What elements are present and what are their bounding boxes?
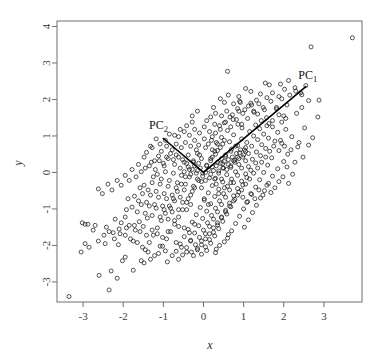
data-point [203, 146, 207, 150]
data-point [228, 204, 232, 208]
data-point [137, 220, 141, 224]
data-point [174, 186, 178, 190]
data-point [127, 178, 131, 182]
data-point [277, 113, 281, 117]
data-point [157, 159, 161, 163]
data-point [103, 242, 107, 246]
data-point [216, 210, 220, 214]
data-point [212, 217, 216, 221]
data-point [146, 188, 150, 192]
data-point [212, 105, 216, 109]
data-point [230, 229, 234, 233]
data-point [136, 199, 140, 203]
data-point [252, 171, 256, 175]
data-point [258, 92, 262, 96]
data-point [154, 189, 158, 193]
data-point [177, 257, 181, 261]
data-point [290, 135, 294, 139]
data-point [141, 224, 145, 228]
data-point [277, 149, 281, 153]
data-point [87, 245, 91, 249]
data-point [189, 144, 193, 148]
plot-canvas: -3-2-10123 -3-2-101234 PC1PC2 x y [0, 0, 380, 362]
data-point [187, 133, 191, 137]
data-point [138, 230, 142, 234]
data-point [232, 102, 236, 106]
data-point [307, 99, 311, 103]
data-point [350, 36, 354, 40]
data-point [181, 208, 185, 212]
data-point [256, 112, 260, 116]
data-point [241, 195, 245, 199]
data-point [226, 69, 230, 73]
data-point [115, 276, 119, 280]
data-point [167, 178, 171, 182]
data-point [145, 216, 149, 220]
data-point [238, 214, 242, 218]
data-point [214, 251, 218, 255]
data-point [173, 162, 177, 166]
data-point [116, 243, 120, 247]
data-point [166, 230, 170, 234]
data-point [143, 166, 147, 170]
data-point [271, 119, 275, 123]
data-point [86, 222, 90, 226]
data-point [185, 250, 189, 254]
data-point [309, 45, 313, 49]
data-point [67, 295, 71, 299]
data-point [229, 181, 233, 185]
data-point [91, 228, 95, 232]
data-point [197, 224, 201, 228]
data-point [254, 161, 258, 165]
data-point [271, 91, 275, 95]
pc-label-pc2: PC2 [149, 118, 168, 134]
plot-frame [57, 21, 362, 302]
data-point [149, 193, 153, 197]
data-point [163, 170, 167, 174]
data-point [142, 261, 146, 265]
data-point [254, 150, 258, 154]
data-point [260, 143, 264, 147]
data-point [282, 160, 286, 164]
data-point [197, 143, 201, 147]
data-point [135, 241, 139, 245]
data-point [254, 98, 258, 102]
data-point [286, 152, 290, 156]
data-point [171, 158, 175, 162]
data-point [132, 223, 136, 227]
data-point [177, 224, 181, 228]
data-point [206, 203, 210, 207]
data-point [134, 175, 138, 179]
data-point [185, 208, 189, 212]
y-axis-tick-labels: -3-2-101234 [40, 23, 52, 286]
data-point [280, 120, 284, 124]
data-point [198, 205, 202, 209]
data-point [250, 211, 254, 215]
principal-component-labels: PC1PC2 [149, 68, 317, 133]
data-point [158, 142, 162, 146]
data-point [218, 243, 222, 247]
y-tick-label: -1 [40, 204, 52, 213]
data-point [157, 251, 161, 255]
data-point [221, 219, 225, 223]
data-point [237, 95, 241, 99]
data-point [153, 254, 157, 258]
data-point [173, 133, 177, 137]
data-point [217, 187, 221, 191]
data-point [254, 203, 258, 207]
data-point [205, 209, 209, 213]
data-point [112, 237, 116, 241]
data-point [236, 173, 240, 177]
data-point [190, 114, 194, 118]
data-point [287, 78, 291, 82]
data-point [118, 232, 122, 236]
data-point [264, 155, 268, 159]
data-point [244, 159, 248, 163]
data-point [169, 151, 173, 155]
data-point [158, 244, 162, 248]
data-point [177, 208, 181, 212]
data-point [273, 186, 277, 190]
data-point [139, 259, 143, 263]
data-point [267, 83, 271, 87]
data-point [253, 197, 257, 201]
